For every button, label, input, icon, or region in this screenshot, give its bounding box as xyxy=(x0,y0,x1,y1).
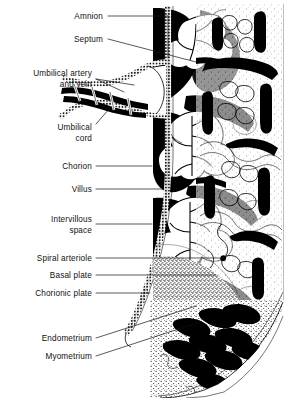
label-text-amnion: Amnion xyxy=(74,12,103,21)
label-text-endometrium: Endometrium xyxy=(42,334,92,343)
label-text-umbilical-vessels-line1: Umbilical artery xyxy=(33,69,93,78)
label-text-umbilical-vessels-line2: and vein xyxy=(60,80,92,89)
placenta-cross-section-figure: AmnionSeptumUmbilical arteryand veinUmbi… xyxy=(0,0,293,398)
label-text-villus: Villus xyxy=(72,185,92,194)
label-text-intervillous-line2: space xyxy=(69,226,92,235)
label-text-basal-plate: Basal plate xyxy=(50,271,92,280)
label-text-spiral-arteriole: Spiral arteriole xyxy=(37,254,92,263)
label-text-umbilical-cord-line2: cord xyxy=(75,134,92,143)
label-text-myometrium: Myometrium xyxy=(45,352,92,361)
label-text-umbilical-cord-line1: Umbilical xyxy=(57,123,92,132)
label-text-chorion: Chorion xyxy=(62,162,92,171)
label-text-chorionic-plate: Chorionic plate xyxy=(35,289,92,298)
label-text-septum: Septum xyxy=(74,35,103,44)
label-umbilical-cord-line2: cord xyxy=(75,134,92,143)
label-intervillous-line2: space xyxy=(69,226,92,235)
decidual-vessels xyxy=(196,4,283,304)
label-text-intervillous-line1: Intervillous xyxy=(51,215,92,224)
